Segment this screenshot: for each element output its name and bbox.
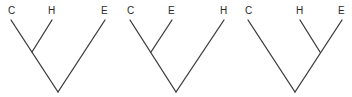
branch-e — [295, 20, 342, 92]
leaf-label-c: C — [127, 5, 134, 16]
branch-c — [130, 20, 176, 92]
branch-e — [58, 20, 105, 92]
leaf-label-c: C — [8, 5, 15, 16]
leaf-label-h: H — [296, 5, 303, 16]
branch-c — [11, 20, 58, 92]
leaf-label-e: E — [168, 5, 175, 16]
leaf-label-e: E — [338, 5, 345, 16]
tree-3: C H E — [245, 5, 345, 92]
tree-1: C H E — [8, 5, 108, 92]
phylogenetic-trees-diagram: C H E C E H C H E — [0, 0, 352, 97]
branch-c — [248, 20, 295, 92]
branch-e — [151, 20, 172, 52]
branch-h — [300, 20, 320, 52]
tree-2: C E H — [127, 5, 227, 92]
branch-h — [176, 20, 224, 92]
branch-h — [32, 20, 52, 52]
leaf-label-e: E — [101, 5, 108, 16]
leaf-label-c: C — [245, 5, 252, 16]
leaf-label-h: H — [220, 5, 227, 16]
leaf-label-h: H — [48, 5, 55, 16]
